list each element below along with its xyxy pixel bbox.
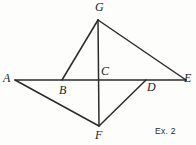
vertex-label-b: B <box>59 84 66 96</box>
segment-G-F <box>98 20 99 126</box>
vertex-label-d: D <box>147 81 156 93</box>
figure-canvas <box>0 0 196 145</box>
segment-G-B <box>62 20 98 80</box>
geometry-figure: A B C D E F G Ex. 2 <box>0 0 196 145</box>
vertex-label-a: A <box>3 72 10 84</box>
vertex-label-c: C <box>101 65 109 77</box>
segment-G-E <box>98 20 186 80</box>
vertex-label-e: E <box>184 72 191 84</box>
vertex-label-f: F <box>95 129 102 141</box>
vertex-label-g: G <box>95 1 104 13</box>
figure-caption: Ex. 2 <box>155 126 176 136</box>
segment-A-F <box>15 80 99 126</box>
segment-F-D <box>99 80 146 126</box>
